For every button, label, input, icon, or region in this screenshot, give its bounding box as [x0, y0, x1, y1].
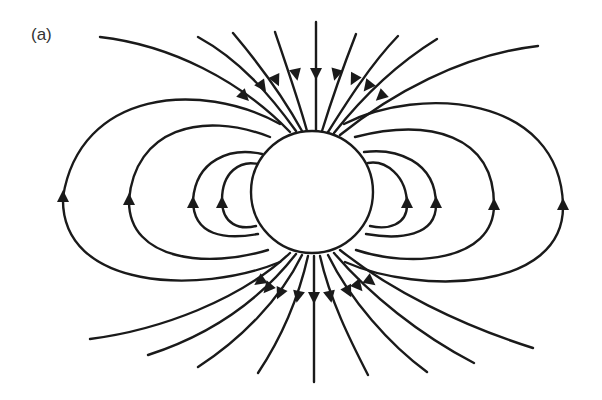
field-lines-bottom: [90, 250, 533, 382]
closed-loops-left: [63, 99, 280, 280]
field-lines-top: [100, 22, 538, 135]
dipole-field-diagram: [0, 0, 602, 400]
closed-loops-right: [344, 103, 563, 281]
sphere: [251, 131, 373, 253]
